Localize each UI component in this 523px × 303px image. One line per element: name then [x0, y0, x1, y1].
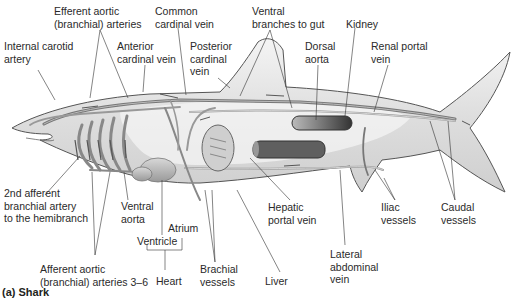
label-heart: Heart [156, 275, 182, 288]
label-ventral-aorta: Ventral aorta [121, 200, 154, 225]
label-liver: Liver [265, 275, 288, 288]
label-dorsal-aorta: Dorsal aorta [305, 40, 335, 65]
label-ventral-branches-to-gut: Ventral branches to gut [252, 5, 324, 30]
kidney [292, 116, 352, 130]
label-efferent-aortic-arteries: Efferent aortic (branchial) arteries [54, 5, 142, 30]
label-ventricle: Ventricle [137, 235, 177, 248]
figure-caption: (a) Shark [2, 286, 49, 298]
label-posterior-cardinal-vein: Posterior cardinal vein [190, 40, 232, 78]
shark-circulatory-diagram [0, 0, 523, 303]
label-common-cardinal-vein: Common cardinal vein [155, 5, 214, 30]
label-afferent-aortic-arteries: Afferent aortic (branchial) arteries 3–6 [40, 263, 148, 288]
label-second-afferent-branchial-artery: 2nd afferent branchial artery to the hem… [4, 187, 88, 225]
label-atrium: Atrium [168, 222, 198, 235]
label-caudal-vessels: Caudal vessels [441, 201, 476, 226]
label-hepatic-portal-vein: Hepatic portal vein [268, 201, 316, 226]
label-renal-portal-vein: Renal portal vein [371, 40, 428, 65]
intestine [253, 141, 325, 158]
label-internal-carotid-artery: Internal carotid artery [4, 40, 73, 65]
label-brachial-vessels: Brachial vessels [200, 263, 238, 288]
liver-organ [202, 125, 234, 171]
label-kidney: Kidney [346, 18, 378, 31]
label-anterior-cardinal-vein: Anterior cardinal vein [117, 40, 176, 65]
label-iliac-vessels: Iliac vessels [381, 201, 416, 226]
label-lateral-abdominal-vein: Lateral abdominal vein [330, 248, 378, 286]
